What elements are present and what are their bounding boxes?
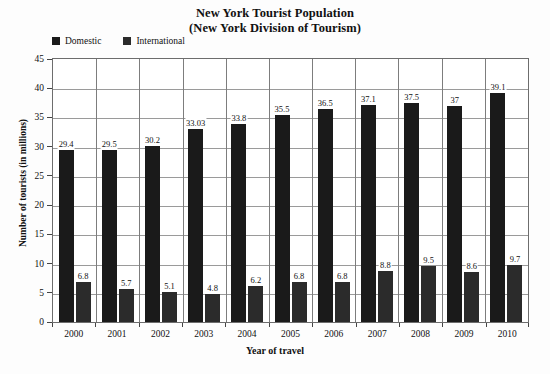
x-axis-tick: 2009 [442,323,485,343]
legend-entry-domestic[interactable]: Domestic [52,36,101,46]
x-axis-tick-mark [399,323,400,327]
bar-value-label: 37.1 [360,94,377,104]
x-axis-tick-label: 2003 [194,329,213,339]
bar-international[interactable]: 6.8 [292,282,307,322]
bar-group: 29.55.7 [96,59,139,322]
x-axis: 2000200120022003200420052006200720082009… [52,323,529,343]
bar-value-label: 6.2 [250,275,263,285]
x-axis-tick-mark [528,323,529,327]
x-axis-tick-mark [95,323,96,327]
y-axis-tick: 35 [35,112,53,122]
y-axis-tick-label: 45 [35,54,45,64]
legend-entry-international[interactable]: International [123,36,185,46]
bar-domestic[interactable]: 33.03 [188,129,203,322]
x-axis-tick: 2008 [399,323,442,343]
legend-swatch-icon [123,37,131,45]
bar-group: 33.86.2 [226,59,269,322]
bar-domestic[interactable]: 39.1 [490,93,505,322]
bar-group: 378.6 [442,59,485,322]
bar-value-label: 5.7 [120,278,133,288]
bar-international[interactable]: 6.8 [76,282,91,322]
x-axis-tick: 2000 [52,323,95,343]
x-axis-tick-mark [442,323,443,327]
bar-value-label: 29.5 [101,139,118,149]
bar-group: 29.46.8 [53,59,96,322]
chart-title: New York Tourist Population [0,6,550,21]
x-axis-tick-mark [486,323,487,327]
bar-domestic[interactable]: 29.5 [102,150,117,322]
bar-groups: 29.46.829.55.730.25.133.034.833.86.235.5… [53,59,528,322]
bar-domestic[interactable]: 35.5 [275,115,290,322]
bar-group: 39.19.7 [485,59,528,322]
bar-domestic[interactable]: 30.2 [145,146,160,323]
bar-value-label: 37 [450,95,461,105]
bar-value-label: 33.8 [230,113,247,123]
y-axis-tick-label: 40 [35,83,45,93]
bar-international[interactable]: 8.6 [464,272,479,322]
bar-group: 37.18.8 [355,59,398,322]
bar-value-label: 8.6 [465,261,478,271]
x-axis-tick-mark [356,323,357,327]
chart-title-block: New York Tourist Population (New York Di… [0,6,550,36]
y-axis: Number of tourists (in millions) 0510152… [0,58,52,323]
bar-value-label: 8.8 [379,260,392,270]
y-axis-title: Number of tourists (in millions) [18,58,28,308]
x-axis-tick-mark [269,323,270,327]
bar-value-label: 6.8 [293,271,306,281]
x-axis-tick-label: 2000 [64,329,83,339]
y-axis-tick-label: 5 [39,288,44,298]
bar-value-label: 30.2 [144,135,161,145]
y-axis-tick-label: 25 [35,171,45,181]
y-axis-tick-label: 20 [35,200,45,210]
y-axis-tick: 25 [35,171,53,181]
bar-international[interactable]: 6.2 [248,286,263,322]
legend-label: Domestic [65,36,101,46]
bar-international[interactable]: 9.5 [421,266,436,322]
bar-domestic[interactable]: 37.5 [404,103,419,322]
x-axis-tick-mark [52,323,53,327]
bar-group: 37.59.5 [399,59,442,322]
bar-domestic[interactable]: 36.5 [318,109,333,322]
bar-domestic[interactable]: 37.1 [361,105,376,322]
x-axis-tick-label: 2001 [108,329,127,339]
x-axis-tick: 2004 [225,323,268,343]
bar-group: 30.25.1 [139,59,182,322]
bar-value-label: 5.1 [163,281,176,291]
y-axis-tick: 0 [39,317,52,327]
x-axis-tick-label: 2008 [411,329,430,339]
x-axis-tick-label: 2010 [498,329,517,339]
bar-international[interactable]: 6.8 [335,282,350,322]
y-axis-tick: 5 [39,288,52,298]
x-axis-tick: 2002 [139,323,182,343]
bar-value-label: 6.8 [336,271,349,281]
x-axis-tick-mark [139,323,140,327]
y-axis-tick-label: 35 [35,112,45,122]
bar-group: 36.56.8 [312,59,355,322]
bar-value-label: 9.5 [422,255,435,265]
bar-domestic[interactable]: 29.4 [59,150,74,322]
y-axis-tick: 30 [35,142,53,152]
bar-domestic[interactable]: 33.8 [231,124,246,322]
x-axis-tick-label: 2005 [281,329,300,339]
x-axis-tick-mark [225,323,226,327]
bar-value-label: 35.5 [274,104,291,114]
bar-domestic[interactable]: 37 [447,106,462,322]
bar-international[interactable]: 9.7 [507,265,522,322]
y-axis-tick: 15 [35,229,53,239]
bar-value-label: 9.7 [509,254,522,264]
x-axis-tick-mark [182,323,183,327]
bar-value-label: 37.5 [403,92,420,102]
bar-international[interactable]: 8.8 [378,271,393,322]
bar-international[interactable]: 5.7 [119,289,134,322]
plot-area: 29.46.829.55.730.25.133.034.833.86.235.5… [52,58,529,323]
x-axis-tick-label: 2009 [454,329,473,339]
bar-international[interactable]: 4.8 [205,294,220,322]
chart-subtitle: (New York Division of Tourism) [0,21,550,36]
bar-value-label: 36.5 [317,98,334,108]
x-axis-tick: 2001 [95,323,138,343]
bar-group: 33.034.8 [183,59,226,322]
bar-international[interactable]: 5.1 [162,292,177,322]
y-axis-tick-label: 30 [35,142,45,152]
x-axis-tick-label: 2006 [324,329,343,339]
x-axis-tick-label: 2002 [151,329,170,339]
